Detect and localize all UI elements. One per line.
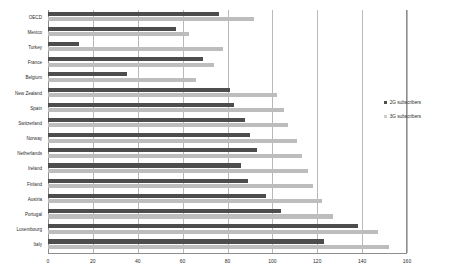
bar-3g [48,17,254,21]
bar-2g [48,209,281,213]
legend-swatch-2g-icon [384,101,387,104]
x-tick-label: 120 [313,258,321,264]
category-label: Switzerland [18,121,42,127]
bar-2g [48,118,245,122]
x-tick-label: 140 [358,258,366,264]
bar-3g [48,123,288,127]
category-label: Finland [27,182,42,188]
plot-area [48,10,407,253]
category-label: Turkey [28,45,42,51]
category-label: Norway [26,136,42,142]
bar-3g [48,32,189,36]
bar-3g [48,245,389,249]
bar-3g [48,78,196,82]
x-tick-label: 0 [47,258,50,264]
bar-group [48,223,407,238]
bar-2g [48,194,266,198]
bar-group [48,86,407,101]
bar-2g [48,57,203,61]
category-label: Luxembourg [16,227,42,233]
x-tick-label: 40 [135,258,141,264]
bar-group [48,238,407,253]
bar-3g [48,47,223,51]
bar-chart: OECDMexicoTurkeyFranceBelgiumNew Zealand… [0,0,450,273]
bar-3g [48,93,277,97]
x-tick-label: 80 [225,258,231,264]
category-axis-labels: OECDMexicoTurkeyFranceBelgiumNew Zealand… [0,10,45,253]
bar-group [48,147,407,162]
bar-3g [48,63,214,67]
legend-item-2g: 2G subscribers [384,100,448,105]
bar-group [48,10,407,25]
category-label: Spain [30,106,42,112]
legend-label-2g: 2G subscribers [390,100,422,105]
bar-group [48,132,407,147]
bar-group [48,192,407,207]
bar-2g [48,224,358,228]
bar-3g [48,199,322,203]
legend-swatch-3g-icon [384,115,387,118]
bar-2g [48,88,230,92]
bar-group [48,207,407,222]
bar-3g [48,169,308,173]
category-label: New Zealand [15,91,42,97]
category-label: Portugal [25,212,42,218]
bar-3g [48,108,284,112]
bar-3g [48,214,333,218]
bar-group [48,101,407,116]
bar-3g [48,184,313,188]
bar-2g [48,239,324,243]
legend-item-3g: 3G subscribers [384,114,448,119]
x-axis-tick-labels: 020406080100120140160 [0,258,450,270]
category-label: France [28,60,42,66]
x-tick-label: 60 [180,258,186,264]
x-tick-label: 20 [90,258,96,264]
bar-2g [48,27,176,31]
bar-group [48,56,407,71]
bar-group [48,116,407,131]
bar-group [48,71,407,86]
category-label: Mexico [27,30,42,36]
bar-2g [48,163,241,167]
category-label: OECD [29,15,42,21]
x-axis-line [48,253,407,254]
bar-3g [48,154,302,158]
plot-right-border [406,10,407,253]
bar-group [48,40,407,55]
category-label: Netherlands [17,151,42,157]
category-label: Italy [34,242,42,248]
bar-group [48,25,407,40]
gridline-160 [407,10,408,253]
bar-2g [48,72,127,76]
category-label: Ireland [28,166,42,172]
bar-2g [48,179,248,183]
bar-3g [48,139,297,143]
bar-3g [48,230,378,234]
category-label: Austria [28,197,42,203]
bar-group [48,162,407,177]
x-tick-label: 160 [403,258,411,264]
bar-2g [48,133,250,137]
bar-2g [48,103,234,107]
bar-2g [48,148,257,152]
category-label: Belgium [25,75,42,81]
legend-label-3g: 3G subscribers [390,114,422,119]
chart-legend: 2G subscribers 3G subscribers [384,100,448,128]
bar-rows [48,10,407,253]
bar-2g [48,42,79,46]
bar-group [48,177,407,192]
x-tick-label: 100 [268,258,276,264]
bar-2g [48,12,219,16]
